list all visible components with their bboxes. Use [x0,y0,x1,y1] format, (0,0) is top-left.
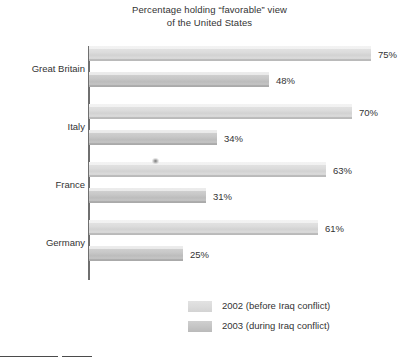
bar-italy-2003[interactable] [89,130,217,145]
legend-label-2002: 2002 (before Iraq conflict) [222,298,330,314]
bar-france-2002[interactable] [89,162,326,177]
category-label-great-britain: Great Britain [0,63,85,74]
bar-group-great-britain: Great Britain 75% 48% [0,46,419,103]
category-label-italy: Italy [0,121,85,132]
bar-row-great-britain-2003: 48% [89,72,269,87]
bar-row-italy-2003: 34% [89,130,217,145]
chart-legend: 2002 (before Iraq conflict) 2003 (during… [188,298,419,338]
scan-artifact-speck [152,158,159,164]
bar-row-italy-2002: 70% [89,104,352,119]
page-bottom-rule-gap [58,355,62,357]
legend-swatch-2002-icon [188,301,212,312]
bar-germany-2003[interactable] [89,246,183,261]
legend-label-2003: 2003 (during Iraq conflict) [222,318,330,334]
bar-value-great-britain-2002: 75% [378,48,397,59]
bar-france-2003[interactable] [89,188,206,203]
legend-item-2002[interactable]: 2002 (before Iraq conflict) [188,298,419,318]
bar-great-britain-2003[interactable] [89,72,269,87]
page-bottom-rule [0,356,92,357]
legend-item-2003[interactable]: 2003 (during Iraq conflict) [188,318,419,338]
bar-value-france-2003: 31% [213,190,232,201]
bar-row-great-britain-2002: 75% [89,46,371,61]
bar-great-britain-2002[interactable] [89,46,371,61]
bar-italy-2002[interactable] [89,104,352,119]
bar-germany-2002[interactable] [89,220,318,235]
category-label-germany: Germany [0,237,85,248]
bar-group-france: France 63% 31% [0,162,419,219]
bar-row-germany-2002: 61% [89,220,318,235]
chart-plot-area: Great Britain 75% 48% Italy 70% 34% Fran… [0,0,419,300]
bar-row-france-2003: 31% [89,188,206,203]
bar-value-italy-2003: 34% [224,132,243,143]
bar-value-germany-2002: 61% [325,222,344,233]
legend-swatch-2003-icon [188,321,212,332]
category-label-france: France [0,179,85,190]
bar-group-italy: Italy 70% 34% [0,104,419,161]
bar-value-france-2002: 63% [333,164,352,175]
bar-group-germany: Germany 61% 25% [0,220,419,277]
bar-row-france-2002: 63% [89,162,326,177]
bar-value-great-britain-2003: 48% [276,74,295,85]
bar-row-germany-2003: 25% [89,246,183,261]
bar-value-germany-2003: 25% [190,248,209,259]
bar-value-italy-2002: 70% [359,106,378,117]
